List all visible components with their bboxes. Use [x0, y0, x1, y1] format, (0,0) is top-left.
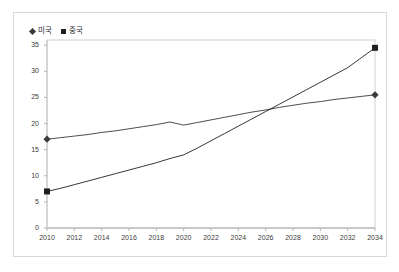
plot-area: 05101520253035 2010201220142016201820202…: [0, 0, 399, 272]
x-tick-label: 2022: [198, 234, 224, 241]
x-tick-label: 2020: [171, 234, 197, 241]
x-tick-label: 2030: [307, 234, 333, 241]
y-tick-label: 25: [21, 93, 39, 100]
axes: [47, 40, 375, 228]
x-tick-label: 2034: [362, 234, 388, 241]
x-tick-label: 2024: [225, 234, 251, 241]
x-tick-label: 2026: [253, 234, 279, 241]
tick-marks: [44, 45, 375, 231]
y-tick-label: 15: [21, 146, 39, 153]
x-tick-label: 2028: [280, 234, 306, 241]
y-tick-label: 35: [21, 41, 39, 48]
y-tick-label: 30: [21, 67, 39, 74]
y-tick-label: 10: [21, 172, 39, 179]
x-tick-label: 2018: [143, 234, 169, 241]
x-tick-label: 2010: [34, 234, 60, 241]
x-tick-label: 2032: [335, 234, 361, 241]
x-tick-label: 2016: [116, 234, 142, 241]
y-tick-label: 0: [21, 224, 39, 231]
x-tick-label: 2012: [61, 234, 87, 241]
chart-figure: 미국 중국 05101520253035 2010201220142016201…: [0, 0, 399, 272]
y-tick-label: 20: [21, 120, 39, 127]
x-tick-label: 2014: [89, 234, 115, 241]
data-series: [43, 45, 378, 195]
y-tick-label: 5: [21, 198, 39, 205]
chart-canvas: [0, 0, 399, 272]
